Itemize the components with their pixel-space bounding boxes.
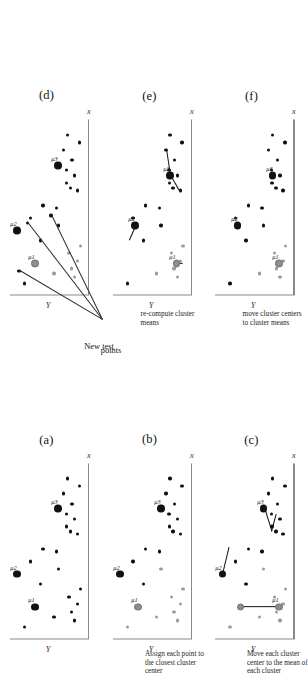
cluster-center-label: μ2	[216, 563, 222, 570]
cluster-center-label: μ2	[10, 563, 16, 570]
cluster-center	[237, 603, 245, 611]
data-point	[144, 203, 147, 206]
cluster-center-label: μ3	[154, 498, 160, 505]
data-point	[173, 158, 176, 161]
cluster-center-label: μ2	[113, 563, 119, 570]
panel-step-text-c: Move each cluster center to the mean of …	[247, 649, 308, 675]
cluster-center-label: μ1	[28, 252, 34, 259]
cluster-center-label: μ2	[10, 219, 16, 226]
cluster-center	[31, 259, 39, 267]
data-point	[176, 275, 179, 278]
center-link	[241, 606, 280, 607]
data-point	[70, 610, 73, 613]
cluster-center	[54, 161, 62, 169]
x-axis-label: x	[292, 449, 296, 459]
data-point	[78, 484, 81, 487]
data-point	[173, 502, 176, 505]
data-point	[181, 244, 184, 247]
data-point	[76, 602, 79, 605]
data-point	[126, 625, 129, 628]
data-point	[39, 582, 42, 585]
data-point	[274, 529, 277, 532]
panel-a: Yxμ1μ2μ3(a)	[8, 407, 100, 657]
data-point	[176, 517, 179, 520]
center-link	[222, 546, 230, 574]
data-point	[281, 188, 284, 191]
data-point	[258, 615, 261, 618]
data-point	[62, 491, 65, 494]
y-axis	[113, 294, 191, 295]
data-point	[260, 549, 263, 552]
data-point	[168, 524, 171, 527]
data-point	[276, 158, 279, 161]
data-point	[79, 244, 82, 247]
data-point	[278, 618, 281, 621]
data-point	[276, 502, 279, 505]
data-point	[234, 559, 237, 562]
y-axis	[215, 294, 293, 295]
data-point	[70, 158, 73, 161]
data-point	[23, 281, 26, 284]
cluster-center-label: μ1	[131, 596, 137, 603]
data-point	[41, 203, 44, 206]
data-point	[55, 549, 58, 552]
cluster-center-label: μ2	[231, 214, 237, 221]
panel-b: Yxμ1μ2μ3(b)Assign each point to the clos…	[111, 407, 203, 657]
cluster-center-label: μ2	[128, 214, 134, 221]
cluster-center-label: μ3	[52, 498, 58, 505]
data-point	[260, 206, 263, 209]
panel-e: Yxμ1μ2μ3(e)re-compute cluster means	[111, 64, 203, 314]
data-point	[155, 271, 158, 274]
data-point	[244, 582, 247, 585]
panel-f: Yxμ1μ2μ3(f)move cluster centers to clust…	[213, 64, 305, 314]
cluster-center-label: μ1	[28, 596, 34, 603]
cluster-center-label: μ3	[52, 154, 58, 161]
cluster-center-label: μ3	[257, 498, 263, 505]
y-axis-label: Y	[251, 300, 256, 310]
panel-caption-e: (e)	[142, 89, 156, 104]
panel-d: Yxμ1μ2μ3(d)New testpoints	[8, 64, 100, 314]
cluster-center	[219, 570, 227, 578]
x-axis-label: x	[190, 449, 194, 459]
cluster-center	[13, 226, 21, 234]
data-point	[283, 140, 286, 143]
cluster-center-label: μ3	[266, 164, 272, 171]
data-point	[284, 244, 287, 247]
panel-caption-a: (a)	[39, 432, 53, 447]
cluster-center	[275, 603, 283, 611]
cluster-center	[173, 259, 181, 267]
panel-caption-d: (d)	[39, 88, 54, 103]
data-point	[69, 186, 72, 189]
data-point	[158, 549, 161, 552]
data-point	[176, 618, 179, 621]
data-point	[155, 615, 158, 618]
data-point	[168, 133, 171, 136]
data-point	[180, 140, 183, 143]
cluster-center	[31, 603, 39, 611]
panel-step-text-f: move cluster centers to cluster means	[243, 310, 305, 327]
data-point	[142, 582, 145, 585]
data-point	[247, 547, 250, 550]
test-point-leader	[28, 222, 103, 319]
figure-canvas: Yxμ1μ2μ3(a)Yxμ1μ2μ3(b)Assign each point …	[0, 0, 308, 687]
data-point	[167, 512, 170, 515]
x-axis-label: x	[292, 106, 296, 116]
data-point	[73, 618, 76, 621]
data-point	[271, 476, 274, 479]
data-point	[228, 625, 231, 628]
data-point	[65, 512, 68, 515]
data-point	[144, 547, 147, 550]
data-point	[52, 271, 55, 274]
data-point	[262, 223, 265, 226]
data-point	[126, 281, 129, 284]
data-point	[281, 532, 284, 535]
cluster-center-label: μ1	[272, 596, 278, 603]
cluster-center	[260, 504, 268, 512]
data-point	[69, 529, 72, 532]
cluster-center	[166, 171, 174, 179]
data-point	[176, 173, 179, 176]
cluster-center	[54, 504, 62, 512]
panel-step-text-e: re-compute cluster means	[140, 310, 202, 327]
data-point	[278, 517, 281, 520]
y-axis-label: Y	[46, 300, 51, 310]
